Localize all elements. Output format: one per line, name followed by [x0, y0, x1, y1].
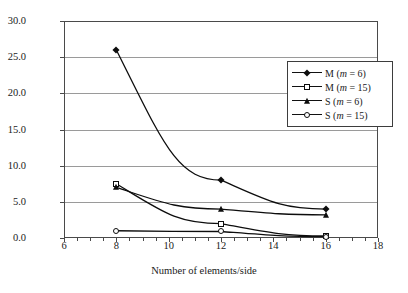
- legend-item: M (m = 15): [292, 80, 387, 94]
- legend-label: S (m = 6): [325, 96, 363, 107]
- data-point-marker: [323, 234, 329, 240]
- legend-marker-icon: [292, 109, 322, 121]
- series-lines: [0, 0, 408, 293]
- legend-marker-icon: [292, 67, 322, 79]
- legend-item: S (m = 15): [292, 108, 387, 122]
- data-point-marker: [218, 206, 224, 212]
- data-point-marker: [113, 184, 119, 190]
- data-point-marker: [113, 228, 119, 234]
- legend-label: M (m = 15): [325, 82, 371, 93]
- legend-item: S (m = 6): [292, 94, 387, 108]
- legend-label: S (m = 15): [325, 110, 368, 121]
- legend-marker-icon: [292, 81, 322, 93]
- data-point-marker: [218, 228, 224, 234]
- chart-container: Fraction of total energy (%) 30.025.020.…: [0, 0, 408, 293]
- data-point-marker: [218, 221, 224, 227]
- legend-marker-icon: [292, 95, 322, 107]
- legend-item: M (m = 6): [292, 66, 387, 80]
- data-point-marker: [323, 212, 329, 218]
- x-axis-title: Number of elements/side: [0, 265, 408, 276]
- legend-label: M (m = 6): [325, 68, 366, 79]
- legend: M (m = 6)M (m = 15)S (m = 6)S (m = 15): [287, 61, 393, 127]
